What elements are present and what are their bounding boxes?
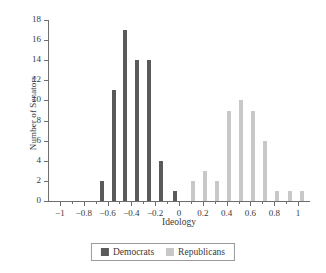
x-axis-tick <box>60 202 61 206</box>
x-axis-tick <box>131 202 132 206</box>
y-axis-tick-label: 2 <box>37 175 42 186</box>
legend-swatch-icon <box>101 248 109 256</box>
bar <box>147 60 151 201</box>
bar <box>300 191 304 201</box>
x-axis-tick <box>298 202 299 206</box>
y-axis-line <box>48 20 49 202</box>
chart-figure: Number of Senators 024681012141618 −1−0.… <box>0 0 326 273</box>
bar <box>159 161 163 201</box>
y-axis-tick-label: 8 <box>37 115 42 126</box>
y-axis-tick: 18 <box>44 20 48 21</box>
y-axis-tick-label: 6 <box>37 135 42 146</box>
y-axis-tick: 8 <box>44 121 48 122</box>
chart-legend: DemocratsRepublicans <box>91 243 235 261</box>
y-axis-tick-label: 0 <box>37 195 42 206</box>
legend-label: Republicans <box>178 247 225 257</box>
y-axis-tick: 12 <box>44 80 48 81</box>
y-axis-tick: 10 <box>44 100 48 101</box>
x-axis-tick <box>108 202 109 206</box>
plot-area: 024681012141618 −1−0.8−0.6−0.4−0.200.20.… <box>48 20 310 202</box>
bar <box>123 30 127 201</box>
bar <box>251 111 255 202</box>
y-axis-tick: 0 <box>44 201 48 202</box>
x-axis-tick <box>203 202 204 206</box>
legend-item: Republicans <box>166 247 225 257</box>
y-axis-tick-label: 4 <box>37 155 42 166</box>
y-axis-tick-label: 14 <box>32 54 41 65</box>
x-axis-tick <box>155 202 156 206</box>
x-axis-tick <box>250 202 251 206</box>
x-axis-minor-tick <box>286 202 287 204</box>
bar <box>275 191 279 201</box>
bar <box>191 181 195 201</box>
x-axis-minor-tick <box>262 202 263 204</box>
x-axis-minor-tick <box>239 202 240 204</box>
x-axis-tick <box>84 202 85 206</box>
legend-swatch-icon <box>166 248 174 256</box>
x-axis-minor-tick <box>215 202 216 204</box>
y-axis-tick-label: 18 <box>32 14 41 25</box>
bar <box>135 60 139 201</box>
y-axis-tick: 4 <box>44 161 48 162</box>
y-axis-tick: 6 <box>44 141 48 142</box>
legend-item: Democrats <box>101 247 154 257</box>
y-axis-tick: 14 <box>44 60 48 61</box>
bar <box>263 141 267 201</box>
bar <box>227 111 231 202</box>
bar <box>173 191 177 201</box>
x-axis-minor-tick <box>143 202 144 204</box>
x-axis-tick <box>227 202 228 206</box>
bar <box>288 191 292 201</box>
x-axis-minor-tick <box>119 202 120 204</box>
x-axis-tick <box>179 202 180 206</box>
x-axis-minor-tick <box>167 202 168 204</box>
bar <box>112 90 116 201</box>
y-axis-tick-label: 10 <box>32 94 41 105</box>
x-axis-tick <box>274 202 275 206</box>
bar <box>239 100 243 201</box>
bar <box>215 181 219 201</box>
bar <box>100 181 104 201</box>
legend-label: Democrats <box>113 247 154 257</box>
x-axis-minor-tick <box>191 202 192 204</box>
x-axis-minor-tick <box>72 202 73 204</box>
y-axis-tick: 16 <box>44 40 48 41</box>
y-axis-tick: 2 <box>44 181 48 182</box>
y-axis-tick-label: 12 <box>32 74 41 85</box>
y-axis-tick-label: 16 <box>32 34 41 45</box>
x-axis-minor-tick <box>96 202 97 204</box>
x-axis-title: Ideology <box>48 217 310 227</box>
bar <box>203 171 207 201</box>
